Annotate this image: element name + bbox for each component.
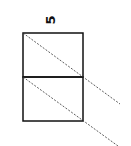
stacked-boxes-diagram <box>0 0 131 146</box>
dashed-diagonal-top <box>23 33 120 104</box>
dashed-diagonal-bottom <box>23 77 118 146</box>
